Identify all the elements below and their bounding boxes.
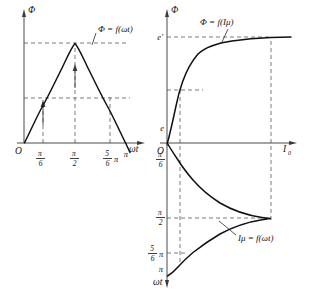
right-lower-label-group: Iμ = f(ωt) (219, 221, 273, 243)
right-vertical-axis-label: Φ (171, 5, 178, 15)
left-xtick-5pi6-denominator: 6 (106, 159, 110, 168)
left-origin-label: O (15, 146, 22, 156)
right-ytick-pi6-denominator: 6 (159, 160, 163, 169)
right-ytick-pi2: π 2 (156, 208, 165, 227)
right-ytick-pi: π (159, 264, 164, 274)
right-ytick-5pi6-numerator: 5 (150, 244, 154, 253)
right-ytick-5pi6-denominator: 6 (151, 254, 155, 263)
right-ytick-pi2-numerator: π (158, 208, 162, 217)
left-xtick-pi2-denominator: 2 (73, 159, 77, 168)
right-horizontal-axis (160, 141, 297, 145)
left-xtick-5pi6-suffix: π (114, 154, 119, 164)
right-horizontal-axis-sublabel: 0 (288, 150, 291, 156)
left-horizontal-axis-label: ωt (129, 144, 139, 154)
left-arrow-pi2 (73, 64, 78, 88)
right-vertical-axis-downward (165, 143, 169, 288)
left-vertical-axis (22, 9, 26, 143)
right-ytick-e-prime: e′ (157, 32, 163, 42)
left-curve-label: Φ = f(ωt) (98, 24, 133, 34)
right-lower-curve-label: Iμ = f(ωt) (237, 233, 273, 243)
left-xtick-pi6: π 6 (36, 149, 45, 168)
right-ytick-5pi6: 5 6 π (148, 244, 164, 263)
left-xtick-pi6-numerator: π (38, 149, 42, 158)
left-chart: Φ = f(ωt) Φ ωt O π 6 π 2 5 6 π π (15, 5, 145, 168)
right-magnetization-curve (168, 37, 292, 143)
left-vertical-axis-label: Φ (28, 5, 35, 15)
figure-container: Φ = f(ωt) Φ ωt O π 6 π 2 5 6 π π (0, 0, 310, 298)
right-ytick-pi2-denominator: 2 (159, 218, 163, 227)
left-xtick-pi: π (124, 149, 129, 159)
left-xtick-5pi6: 5 6 π (103, 149, 119, 168)
right-ytick-5pi6-suffix: π (159, 249, 164, 259)
right-downward-axis-label: ωt (153, 277, 163, 287)
right-upper-curve-leader (222, 29, 228, 42)
left-curve-label-group: Φ = f(ωt) (92, 24, 133, 45)
right-upper-curve-label: Φ = f(Iμ) (200, 17, 233, 27)
right-horizontal-axis-label-group: I 0 (282, 144, 291, 156)
left-xtick-pi2-numerator: π (72, 149, 76, 158)
right-horizontal-axis-label: I (282, 144, 287, 154)
right-vertical-axis-upper (165, 9, 169, 146)
left-xtick-pi2: π 2 (70, 149, 79, 168)
right-ytick-e: e (160, 123, 164, 133)
left-xtick-5pi6-numerator: 5 (105, 149, 109, 158)
diagram-svg: Φ = f(ωt) Φ ωt O π 6 π 2 5 6 π π (0, 0, 310, 298)
left-xtick-pi6-denominator: 6 (39, 159, 43, 168)
right-chart: Φ = f(Iμ) Iμ = f(ωt) Φ O I 0 ωt e′ e π 6… (148, 5, 297, 288)
right-magnetizing-current-curve (168, 144, 272, 277)
right-upper-label-group: Φ = f(Iμ) (200, 17, 233, 42)
right-ytick-pi6-numerator: π (158, 150, 162, 159)
